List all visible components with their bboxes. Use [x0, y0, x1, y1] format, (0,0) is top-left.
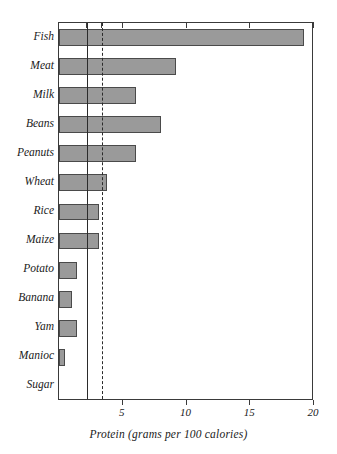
category-label-maize: Maize [0, 234, 54, 246]
category-label-sugar: Sugar [0, 379, 54, 391]
bar-row [59, 116, 312, 133]
bar-row [59, 29, 312, 46]
bar-row [59, 349, 312, 366]
top-axis-ticks [58, 22, 313, 30]
category-axis-labels: FishMeatMilkBeansPeanutsWheatRiceMaizePo… [0, 22, 54, 400]
x-tick-label-10: 10 [180, 406, 191, 418]
category-label-wheat: Wheat [0, 176, 54, 188]
category-label-rice: Rice [0, 205, 54, 217]
plot-area [59, 23, 312, 399]
bar-row [59, 378, 312, 395]
top-tick-ref-1 [101, 22, 102, 28]
bar-peanuts [59, 145, 136, 162]
category-label-potato: Potato [0, 263, 54, 275]
bar-row [59, 320, 312, 337]
bar-meat [59, 58, 176, 75]
protein-bar-chart: FishMeatMilkBeansPeanutsWheatRiceMaizePo… [0, 0, 337, 454]
bar-yam [59, 320, 77, 337]
bar-manioc [59, 349, 65, 366]
reference-line-dashed [102, 23, 103, 399]
bar-maize [59, 233, 99, 250]
bar-fish [59, 29, 304, 46]
bar-row [59, 262, 312, 279]
bar-wheat [59, 174, 107, 191]
x-tick-mark-10 [186, 400, 187, 405]
bar-milk [59, 87, 136, 104]
reference-line-solid [87, 23, 88, 399]
x-tick-mark-15 [249, 400, 250, 405]
x-tick-mark-20 [313, 400, 314, 405]
bar-row [59, 58, 312, 75]
top-tick-20 [313, 22, 314, 28]
plot-frame [58, 22, 313, 400]
bar-row [59, 291, 312, 308]
category-label-milk: Milk [0, 89, 54, 101]
category-label-fish: Fish [0, 31, 54, 43]
category-label-meat: Meat [0, 60, 54, 72]
bar-row [59, 204, 312, 221]
bar-banana [59, 291, 72, 308]
category-label-banana: Banana [0, 292, 54, 304]
x-tick-label-15: 15 [244, 406, 255, 418]
x-axis: 5101520 [58, 400, 313, 422]
x-tick-label-20: 20 [308, 406, 319, 418]
top-tick-15 [249, 22, 250, 28]
top-tick-5 [122, 22, 123, 28]
category-label-beans: Beans [0, 118, 54, 130]
category-label-yam: Yam [0, 321, 54, 333]
x-tick-label-5: 5 [119, 406, 125, 418]
bar-beans [59, 116, 161, 133]
axis-caption: Protein (grams per 100 calories) [0, 428, 337, 440]
top-tick-ref-0 [86, 22, 87, 28]
bar-row [59, 87, 312, 104]
bar-potato [59, 262, 77, 279]
bar-row [59, 174, 312, 191]
category-label-peanuts: Peanuts [0, 147, 54, 159]
bar-rice [59, 204, 99, 221]
x-tick-mark-5 [122, 400, 123, 405]
category-label-manioc: Manioc [0, 350, 54, 362]
bar-row [59, 145, 312, 162]
bar-row [59, 233, 312, 250]
top-tick-10 [186, 22, 187, 28]
